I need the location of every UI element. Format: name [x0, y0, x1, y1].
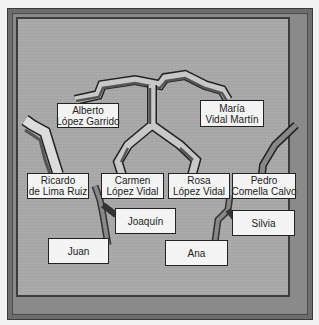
- person-first-name: Pedro: [251, 175, 278, 186]
- person-alberto: Alberto López Garrido: [57, 103, 119, 128]
- tree-branches: [0, 0, 319, 325]
- person-first-name: Alberto: [72, 105, 104, 116]
- person-ricardo: Ricardo de Lima Ruiz: [27, 173, 89, 199]
- person-maria: María Vidal Martín: [200, 100, 264, 127]
- person-surname: López Vidal: [106, 186, 158, 197]
- person-first-name: Rosa: [187, 175, 210, 186]
- person-surname: López Garrido: [56, 116, 119, 127]
- person-first-name: María: [219, 103, 245, 114]
- person-surname: Vidal Martín: [205, 114, 258, 125]
- person-first-name: Ana: [188, 248, 206, 259]
- person-carmen: Carmen López Vidal: [101, 173, 164, 199]
- person-surname: Comella Calvo: [231, 186, 296, 197]
- person-surname: López Vidal: [173, 186, 225, 197]
- person-first-name: Silvia: [252, 218, 276, 229]
- person-first-name: Ricardo: [41, 175, 75, 186]
- person-ana: Ana: [165, 240, 228, 266]
- person-surname: de Lima Ruiz: [29, 186, 87, 197]
- person-first-name: Juan: [68, 246, 90, 257]
- person-juan: Juan: [48, 238, 109, 264]
- person-joaquin: Joaquín: [115, 208, 176, 234]
- person-pedro: Pedro Comella Calvo: [232, 173, 296, 199]
- person-first-name: Joaquín: [128, 216, 164, 227]
- person-rosa: Rosa López Vidal: [168, 173, 230, 199]
- person-first-name: Carmen: [115, 175, 151, 186]
- person-silvia: Silvia: [232, 210, 295, 236]
